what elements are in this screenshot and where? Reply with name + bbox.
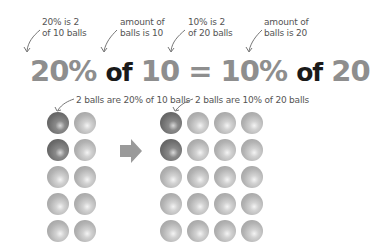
curved-arrow-icon bbox=[58, 99, 74, 110]
ball bbox=[47, 193, 69, 215]
ball bbox=[187, 220, 209, 242]
ball bbox=[214, 220, 236, 242]
ball bbox=[214, 166, 236, 188]
highlighted-ball bbox=[47, 112, 69, 134]
ball bbox=[241, 193, 263, 215]
highlighted-ball bbox=[160, 112, 182, 134]
ball bbox=[160, 193, 182, 215]
ball bbox=[214, 193, 236, 215]
ball bbox=[74, 112, 96, 134]
ball bbox=[214, 112, 236, 134]
right-arrow-icon bbox=[120, 139, 142, 163]
curved-arrow-icon bbox=[171, 30, 185, 51]
curved-arrow-icon bbox=[104, 30, 117, 51]
ball bbox=[47, 166, 69, 188]
ball bbox=[241, 220, 263, 242]
ball bbox=[214, 139, 236, 161]
curved-arrow-icon bbox=[27, 30, 40, 51]
ball bbox=[241, 166, 263, 188]
ball bbox=[74, 166, 96, 188]
ball bbox=[160, 220, 182, 242]
highlighted-ball bbox=[160, 139, 182, 161]
ball bbox=[187, 193, 209, 215]
right-amount: 20 bbox=[331, 54, 369, 88]
ball bbox=[187, 139, 209, 161]
curved-arrow-icon bbox=[249, 30, 262, 51]
ball bbox=[160, 166, 182, 188]
curved-arrow-icon bbox=[176, 99, 193, 110]
ball bbox=[187, 112, 209, 134]
ball bbox=[187, 166, 209, 188]
highlighted-ball bbox=[47, 139, 69, 161]
ball bbox=[74, 193, 96, 215]
ball bbox=[241, 112, 263, 134]
ball bbox=[74, 139, 96, 161]
ball bbox=[47, 220, 69, 242]
ball bbox=[241, 139, 263, 161]
ball bbox=[74, 220, 96, 242]
